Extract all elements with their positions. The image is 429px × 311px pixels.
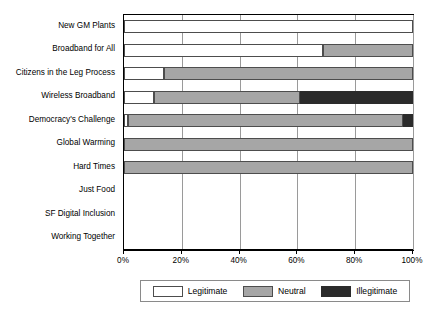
category-axis-labels: New GM PlantsBroadband for AllCitizens i… (0, 14, 119, 249)
x-axis-tick-label: 40% (219, 256, 259, 266)
category-label: Working Together (51, 232, 115, 242)
legend-items: LegitimateNeutralIllegitimate (145, 284, 405, 298)
plot-area (123, 14, 414, 251)
category-label: Wireless Broadband (41, 91, 115, 101)
category-label: Democracy's Challenge (29, 115, 115, 125)
category-label: Global Warming (57, 138, 115, 148)
legend-swatch-legit (153, 286, 183, 297)
legend-swatch-neutral (243, 286, 273, 297)
bar-row (124, 67, 413, 80)
category-label: New GM Plants (58, 21, 115, 31)
stacked-bar-chart: New GM PlantsBroadband for AllCitizens i… (0, 0, 429, 311)
x-axis-tick-label: 60% (276, 256, 316, 266)
bar-row (124, 138, 413, 151)
legend-label: Legitimate (188, 286, 228, 296)
legend-item[interactable]: Neutral (243, 286, 306, 297)
category-label: Just Food (79, 185, 115, 195)
category-label: Citizens in the Leg Process (16, 68, 115, 78)
x-axis-tick (181, 249, 182, 254)
bar-row (124, 91, 413, 104)
x-axis-tick (296, 249, 297, 254)
x-axis-tick-label: 20% (161, 256, 201, 266)
chart-legend: LegitimateNeutralIllegitimate (140, 280, 410, 302)
category-label: SF Digital Inclusion (45, 209, 115, 219)
x-axis-tick (354, 249, 355, 254)
legend-item[interactable]: Legitimate (153, 286, 228, 297)
x-axis-line (123, 249, 412, 250)
bar-row (124, 44, 413, 57)
bar-segment-neutral (128, 114, 403, 127)
bar-segment-neutral (124, 138, 413, 151)
x-axis-tick-label: 0% (103, 256, 143, 266)
legend-swatch-illegit (321, 286, 351, 297)
bar-segment-illegitimate (403, 114, 413, 127)
bar-segment-legitimate (124, 44, 323, 57)
legend-item[interactable]: Illegitimate (321, 286, 397, 297)
x-axis-tick-label: 100% (392, 256, 429, 266)
bar-segment-neutral (323, 44, 413, 57)
x-axis-tick-label: 80% (334, 256, 374, 266)
bar-segment-neutral (164, 67, 413, 80)
bar-segment-legitimate (124, 67, 164, 80)
bar-segment-neutral (124, 161, 413, 174)
legend-label: Illegitimate (356, 286, 397, 296)
category-label: Broadband for All (52, 44, 115, 54)
x-axis-tick (239, 249, 240, 254)
bar-row (124, 161, 413, 174)
bar-segment-neutral (154, 91, 300, 104)
bar-segment-illegitimate (300, 91, 413, 104)
legend-label: Neutral (278, 286, 306, 296)
category-label: Hard Times (73, 162, 115, 172)
x-axis-tick (412, 249, 413, 254)
x-axis-tick (123, 249, 124, 254)
bar-row (124, 20, 413, 33)
bar-row (124, 114, 413, 127)
gridline (413, 15, 414, 250)
bar-segment-legitimate (124, 91, 154, 104)
bar-segment-legitimate (124, 20, 413, 33)
